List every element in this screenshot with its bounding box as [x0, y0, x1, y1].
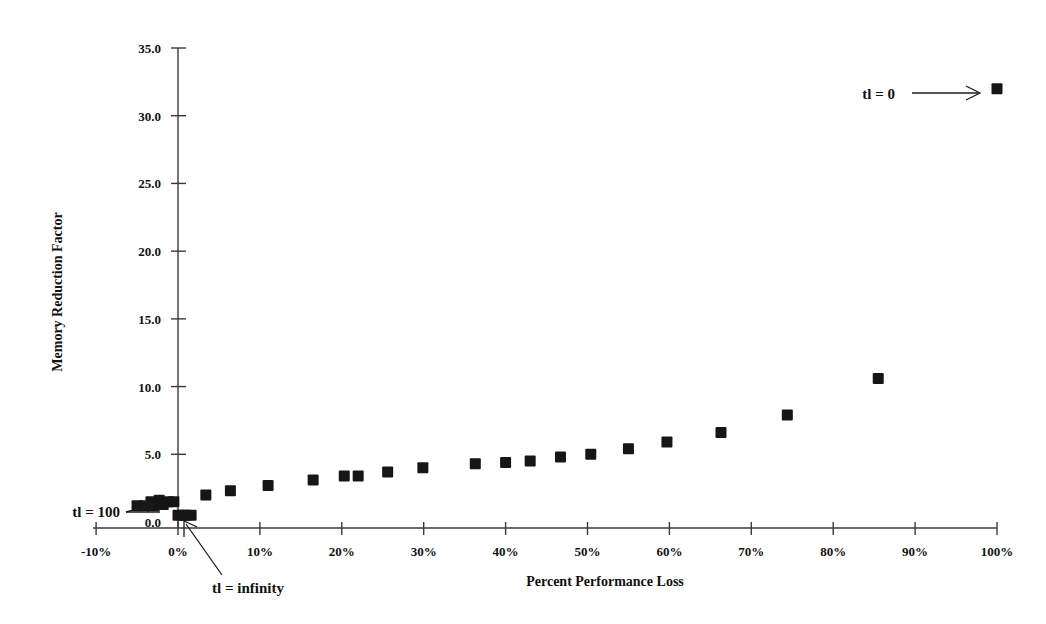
x-tick-label: 70% — [738, 544, 764, 559]
x-tick-label: 100% — [981, 544, 1014, 559]
annotation-tl-infinity-arrow-shaft — [186, 524, 222, 575]
x-tick-label: -10% — [81, 544, 111, 559]
x-tick-label: 60% — [656, 544, 682, 559]
x-axis: -10%0%10%20%30%40%50%60%70%80%90%100% — [81, 522, 1013, 559]
data-point — [715, 427, 726, 438]
data-point — [555, 451, 566, 462]
data-point — [525, 456, 536, 467]
data-point — [339, 470, 350, 481]
data-point — [263, 480, 274, 491]
x-tick-label: 20% — [329, 544, 355, 559]
x-tick-label: 0% — [168, 544, 188, 559]
data-point — [186, 510, 197, 521]
y-tick-label: 20.0 — [138, 244, 161, 259]
y-tick-label: 10.0 — [138, 380, 161, 395]
data-point-group — [132, 83, 1003, 521]
data-point — [168, 496, 179, 507]
data-point — [382, 466, 393, 477]
x-tick-label: 40% — [493, 544, 519, 559]
data-point — [500, 457, 511, 468]
data-point — [417, 462, 428, 473]
data-point — [470, 458, 481, 469]
y-axis-tick-labels: 0.05.010.015.020.025.030.035.0 — [138, 41, 161, 530]
annotation-tl-infinity-arrow-head — [184, 521, 197, 537]
y-tick-label: 15.0 — [138, 312, 161, 327]
plot-canvas: 0.05.010.015.020.025.030.035.0 -10%0%10%… — [0, 0, 1046, 624]
data-point — [873, 373, 884, 384]
x-tick-label: 80% — [820, 544, 846, 559]
y-tick-label: 25.0 — [138, 176, 161, 191]
scatter-chart: 0.05.010.015.020.025.030.035.0 -10%0%10%… — [0, 0, 1046, 624]
data-point — [225, 485, 236, 496]
data-point — [353, 470, 364, 481]
data-point — [200, 489, 211, 500]
data-point — [782, 410, 793, 421]
x-axis-tick-labels: -10%0%10%20%30%40%50%60%70%80%90%100% — [81, 544, 1013, 559]
y-tick-label: 30.0 — [138, 109, 161, 124]
x-tick-label: 90% — [902, 544, 928, 559]
data-point — [623, 443, 634, 454]
annotation-tl-zero-label: tl = 0 — [862, 86, 895, 102]
x-tick-label: 10% — [247, 544, 273, 559]
x-axis-title: Percent Performance Loss — [526, 574, 684, 589]
data-point — [585, 449, 596, 460]
y-axis: 0.05.010.015.020.025.030.035.0 — [138, 41, 186, 530]
data-point — [661, 437, 672, 448]
y-tick-label: 35.0 — [138, 41, 161, 56]
data-point — [308, 475, 319, 486]
x-tick-label: 50% — [575, 544, 601, 559]
x-tick-label: 30% — [411, 544, 437, 559]
y-axis-title: Memory Reduction Factor — [50, 212, 65, 371]
y-tick-label: 5.0 — [145, 447, 161, 462]
annotation-tl-infinity-label: tl = infinity — [212, 580, 284, 596]
annotation-tl-hundred-label: tl = 100 — [72, 504, 120, 520]
annotation-tl-zero: tl = 0 — [862, 86, 980, 102]
data-point — [992, 83, 1003, 94]
